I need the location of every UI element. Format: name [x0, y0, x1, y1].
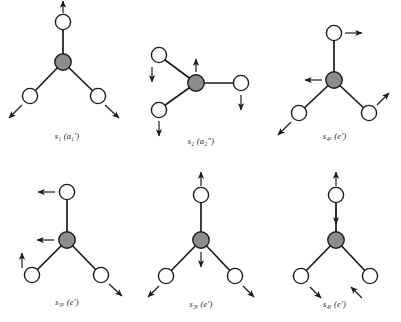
mode-label-s2: s₂ (a₂″) — [134, 136, 268, 146]
outer-atom-lower-left-s1 — [22, 88, 37, 103]
mode-label-s3y: s₃ᵧ (e′) — [134, 299, 268, 309]
central-atom-s3y — [193, 232, 209, 248]
central-atom-s4x — [326, 72, 342, 88]
mode-label-s1: s₁ (a₁′) — [0, 131, 134, 141]
outer-atom-lower-left-s3y — [158, 268, 173, 283]
outer-atom-top-s4y — [328, 187, 343, 202]
outer-atom-lower-left-s2 — [151, 102, 166, 117]
mode-diagram-s3y — [134, 161, 268, 306]
outer-atom-lower-right-s4x — [361, 105, 376, 120]
outer-atom-top-s3y — [193, 187, 208, 202]
outer-atom-lower-right-s3y — [227, 268, 242, 283]
outer-atom-top-s1 — [55, 14, 70, 29]
mode-diagram-s1 — [0, 0, 134, 148]
mode-label-s3x: s₃ₓ (e′) — [0, 297, 134, 307]
outer-atom-upper-left-s2 — [151, 47, 166, 62]
mode-panel-s3x: s₃ₓ (e′) — [0, 161, 134, 322]
central-atom-s1 — [55, 54, 71, 70]
outer-atom-top-s4x — [326, 25, 341, 40]
mode-diagram-s4y — [268, 161, 401, 306]
outer-atom-top-s3x — [59, 184, 74, 199]
mode-panel-s4x: s₄ₓ (e′) — [268, 0, 401, 161]
central-atom-s3x — [59, 232, 75, 248]
outer-atom-lower-left-s4y — [293, 268, 308, 283]
mode-diagram-s4x — [268, 0, 401, 148]
outer-atom-lower-right-s1 — [90, 88, 105, 103]
outer-atom-lower-right-s3x — [93, 267, 108, 282]
central-atom-s4y — [328, 232, 344, 248]
outer-atom-lower-left-s3x — [24, 267, 39, 282]
mode-diagram-s3x — [0, 161, 134, 306]
outer-atom-lower-right-s4y — [362, 268, 377, 283]
displacement-arrows-s2 — [152, 59, 241, 136]
outer-atom-right-s2 — [233, 75, 248, 90]
mode-label-s4y: s₄ᵧ (e′) — [268, 299, 401, 309]
mode-panel-s2: s₂ (a₂″) — [134, 0, 268, 161]
mode-diagram-s2 — [134, 0, 268, 148]
central-atom-s2 — [188, 75, 204, 91]
mode-panel-s4y: s₄ᵧ (e′) — [268, 161, 401, 322]
mode-label-s4x: s₄ₓ (e′) — [268, 131, 401, 141]
mode-panel-s1: s₁ (a₁′) — [0, 0, 134, 161]
vibrational-modes-figure: s₁ (a₁′) s₂ (a — [0, 0, 401, 322]
outer-atom-lower-left-s4x — [291, 105, 306, 120]
mode-panel-s3y: s₃ᵧ (e′) — [134, 161, 268, 322]
